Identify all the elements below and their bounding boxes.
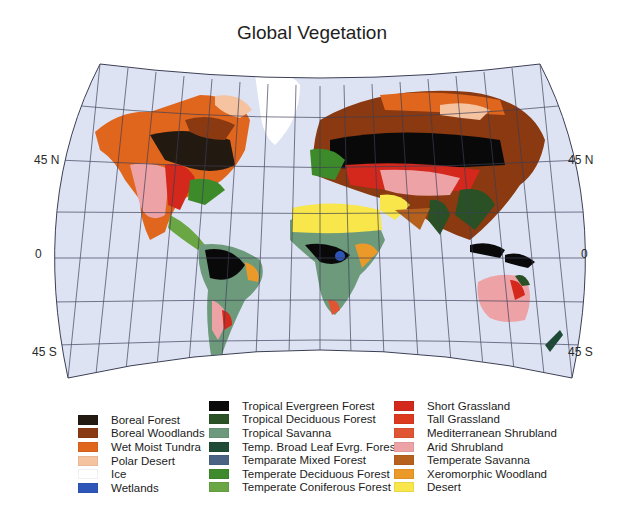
legend-swatch — [394, 414, 414, 424]
legend-item: Tropical Savanna — [209, 426, 399, 440]
legend-swatch — [78, 442, 98, 452]
legend-label: Tropical Savanna — [242, 427, 331, 439]
legend-column-1: Boreal Forest Boreal Woodlands Wet Moist… — [78, 413, 205, 495]
legend-swatch — [394, 442, 414, 452]
legend-swatch — [209, 401, 229, 411]
legend-item: Xeromorphic Woodland — [394, 467, 557, 481]
legend-item: Mediterranean Shrubland — [394, 426, 557, 440]
legend-swatch — [209, 428, 229, 438]
world-vegetation-map — [0, 0, 624, 400]
legend-item: Temparate Mixed Forest — [209, 453, 399, 467]
legend-label: Wetlands — [111, 482, 159, 494]
lat-label-right-45s: 45 S — [568, 345, 593, 359]
legend-label: Temperate Coniferous Forest — [242, 481, 391, 493]
lat-label-right-45n: 45 N — [568, 153, 593, 167]
legend-label: Boreal Forest — [111, 414, 180, 426]
legend-item: Boreal Forest — [78, 413, 205, 427]
legend-item: Temp. Broad Leaf Evrg. Forest — [209, 440, 399, 454]
legend-label: Temperate Deciduous Forest — [242, 468, 390, 480]
legend-item: Tropical Deciduous Forest — [209, 413, 399, 427]
legend-label: Desert — [427, 481, 461, 493]
legend-label: Short Grassland — [427, 400, 510, 412]
legend-item: Desert — [394, 481, 557, 495]
legend-item: Temperate Savanna — [394, 453, 557, 467]
legend-label: Arid Shrubland — [427, 441, 503, 453]
legend-item: Arid Shrubland — [394, 440, 557, 454]
legend-label: Mediterranean Shrubland — [427, 427, 557, 439]
legend-swatch — [209, 482, 229, 492]
legend-item: Short Grassland — [394, 399, 557, 413]
legend-swatch — [394, 428, 414, 438]
legend-item: Tropical Evergreen Forest — [209, 399, 399, 413]
legend-label: Polar Desert — [111, 455, 175, 467]
lat-label-left-45s: 45 S — [32, 345, 57, 359]
legend-column-3: Short Grassland Tall Grassland Mediterra… — [394, 399, 557, 494]
legend-swatch — [78, 456, 98, 466]
legend-item: Wetlands — [78, 481, 205, 495]
legend-label: Temparate Mixed Forest — [242, 454, 366, 466]
legend-label: Wet Moist Tundra — [111, 441, 201, 453]
lat-label-left-equator: 0 — [35, 247, 42, 261]
legend-label: Xeromorphic Woodland — [427, 468, 547, 480]
legend-item: Wet Moist Tundra — [78, 440, 205, 454]
legend-swatch — [78, 469, 98, 479]
legend-swatch — [209, 442, 229, 452]
lat-label-left-45n: 45 N — [34, 153, 59, 167]
legend-item: Temperate Coniferous Forest — [209, 481, 399, 495]
legend-item: Boreal Woodlands — [78, 427, 205, 441]
legend-swatch — [78, 428, 98, 438]
legend-item: Polar Desert — [78, 454, 205, 468]
legend-swatch — [78, 483, 98, 493]
legend-item: Ice — [78, 467, 205, 481]
legend-label: Boreal Woodlands — [111, 427, 205, 439]
legend-column-2: Tropical Evergreen Forest Tropical Decid… — [209, 399, 399, 494]
legend-label: Tall Grassland — [427, 413, 500, 425]
legend-item: Temperate Deciduous Forest — [209, 467, 399, 481]
legend-swatch — [394, 455, 414, 465]
legend-label: Ice — [111, 468, 126, 480]
legend-item: Tall Grassland — [394, 413, 557, 427]
lat-label-right-equator: 0 — [581, 247, 588, 261]
legend-label: Temp. Broad Leaf Evrg. Forest — [242, 441, 399, 453]
legend-swatch — [394, 469, 414, 479]
legend-label: Temperate Savanna — [427, 454, 530, 466]
legend-swatch — [209, 414, 229, 424]
legend-swatch — [209, 455, 229, 465]
legend-swatch — [209, 469, 229, 479]
legend-label: Tropical Evergreen Forest — [242, 400, 375, 412]
legend-swatch — [394, 482, 414, 492]
legend-swatch — [394, 401, 414, 411]
legend-label: Tropical Deciduous Forest — [242, 413, 376, 425]
legend-swatch — [78, 415, 98, 425]
